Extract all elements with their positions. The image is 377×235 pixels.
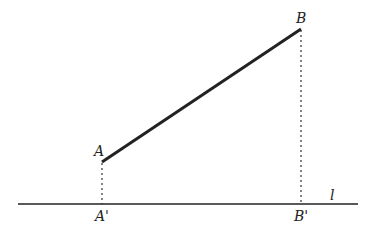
label-b: B	[296, 11, 306, 25]
diagram-canvas	[0, 0, 377, 235]
label-a: A	[94, 144, 104, 158]
segment-ab	[102, 29, 301, 162]
label-b-prime: B'	[294, 209, 308, 223]
label-l: l	[330, 188, 334, 202]
label-a-prime: A'	[95, 209, 109, 223]
